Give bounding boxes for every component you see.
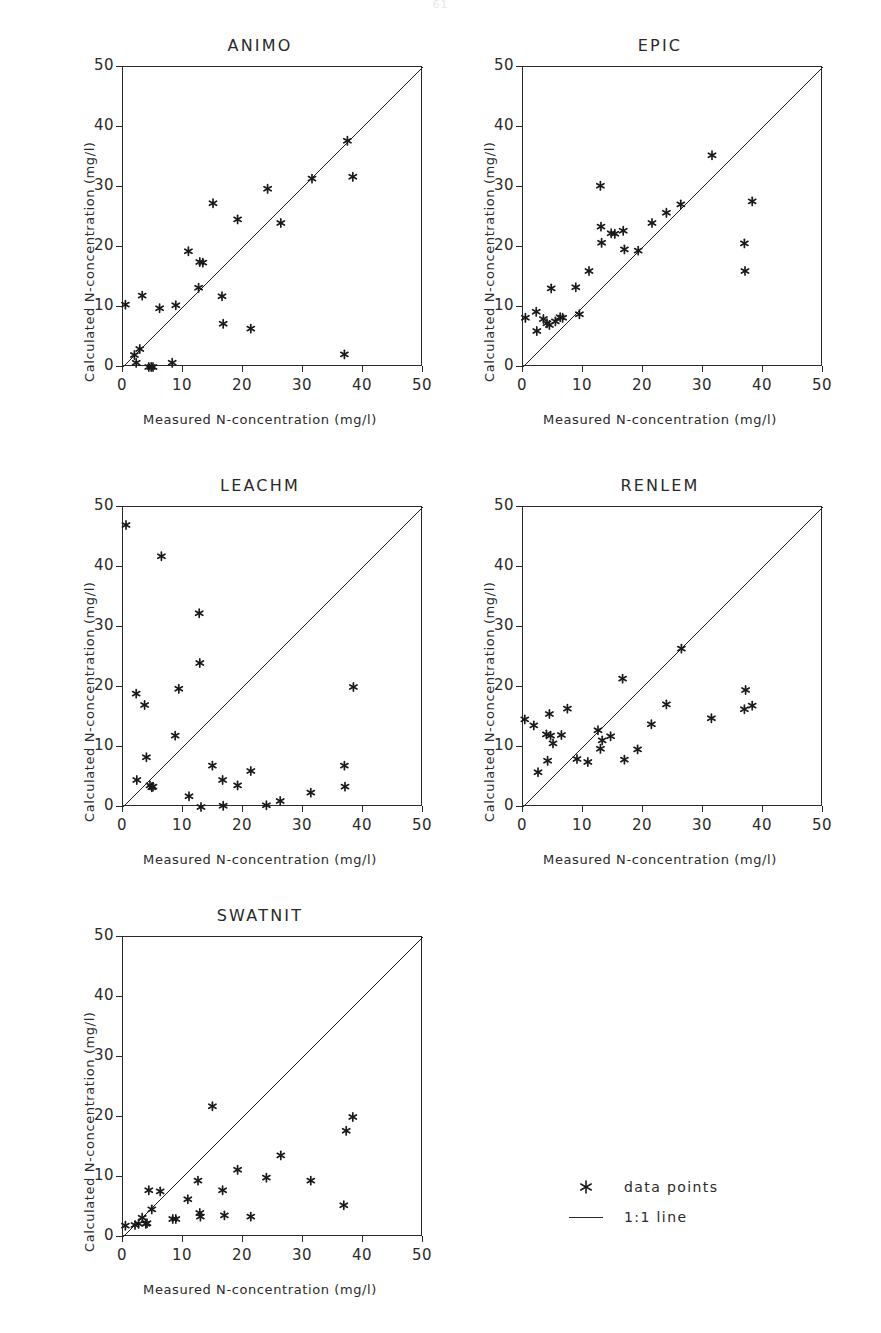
x-tick-label: 20 [622,376,662,394]
plot-canvas [123,937,423,1237]
data-point [749,702,756,710]
data-point [122,301,129,309]
plot-area [522,506,822,806]
data-point [307,1177,314,1185]
x-tick-mark [122,806,123,812]
data-point [185,792,192,800]
x-tick-mark [522,806,523,812]
x-axis-label: Measured N-concentration (mg/l) [60,1282,460,1297]
data-point [122,1222,129,1230]
x-axis-label: Measured N-concentration (mg/l) [60,852,460,867]
y-tick-label: 20 [456,236,514,254]
data-point [558,731,565,739]
y-tick-mark [116,626,122,627]
data-point [522,314,529,322]
plot-canvas [523,67,823,367]
data-point [341,762,348,770]
y-tick-label: 0 [456,356,514,374]
asterisk-marker [560,1177,612,1197]
y-tick-mark [116,126,122,127]
panel-title: ANIMO [60,36,460,55]
y-tick-mark [516,306,522,307]
y-tick-mark [116,1176,122,1177]
data-point [277,797,284,805]
one-to-one-line [523,507,823,807]
x-tick-mark [642,806,643,812]
y-tick-label: 40 [456,556,514,574]
data-point [341,783,348,791]
x-axis-label: Measured N-concentration (mg/l) [460,412,860,427]
y-tick-mark [516,566,522,567]
x-tick-label: 40 [342,376,382,394]
data-point [548,284,555,292]
y-tick-label: 10 [56,1166,114,1184]
x-tick-mark [122,1236,123,1242]
data-point [598,239,605,247]
y-tick-label: 30 [56,616,114,634]
one-to-one-line [523,67,823,367]
plot-area [122,506,422,806]
y-tick-mark [516,746,522,747]
data-point [263,1174,270,1182]
data-point [172,301,179,309]
legend-label: data points [624,1179,718,1195]
data-point [133,690,140,698]
y-tick-mark [516,626,522,627]
panel-leachm: LEACHM Calculated N-concentration (mg/l)… [60,470,460,890]
data-point [572,283,579,291]
x-tick-mark [582,366,583,372]
data-point [194,1177,201,1185]
x-tick-label: 20 [222,816,262,834]
data-point [196,659,203,667]
y-tick-mark [116,1116,122,1117]
data-point [277,219,284,227]
data-point [175,685,182,693]
data-point [136,345,143,353]
data-point [247,1213,254,1221]
y-tick-label: 0 [56,796,114,814]
panel-epic: EPIC Calculated N-concentration (mg/l) M… [460,30,860,450]
y-tick-mark [516,126,522,127]
x-tick-label: 50 [402,816,442,834]
y-tick-label: 50 [456,496,514,514]
y-tick-mark [116,186,122,187]
y-tick-mark [516,686,522,687]
data-point [634,745,641,753]
data-point [635,247,642,255]
data-point [218,292,225,300]
x-tick-label: 40 [342,816,382,834]
x-tick-label: 0 [102,1246,142,1264]
y-tick-label: 20 [56,676,114,694]
data-point [145,1186,152,1194]
data-point [546,710,553,718]
y-tick-mark [116,996,122,997]
data-point [263,801,270,809]
x-tick-label: 40 [742,376,782,394]
x-tick-label: 10 [162,816,202,834]
data-point [143,753,150,761]
y-tick-mark [516,506,522,507]
x-tick-mark [242,1236,243,1242]
x-tick-mark [242,366,243,372]
y-tick-mark [116,306,122,307]
x-tick-label: 10 [562,376,602,394]
data-point [749,197,756,205]
data-point [564,705,571,713]
data-point [156,304,163,312]
data-point [196,609,203,617]
panel-title: LEACHM [60,476,460,495]
y-tick-label: 30 [456,176,514,194]
data-point [350,683,357,691]
data-point [172,732,179,740]
data-point [708,714,715,722]
data-point [742,686,749,694]
x-tick-label: 50 [402,376,442,394]
y-tick-label: 10 [56,296,114,314]
x-tick-label: 0 [102,816,142,834]
panel-title: EPIC [460,36,860,55]
y-tick-label: 50 [56,926,114,944]
x-tick-mark [302,1236,303,1242]
data-point [534,768,541,776]
y-tick-mark [516,66,522,67]
data-point [247,767,254,775]
